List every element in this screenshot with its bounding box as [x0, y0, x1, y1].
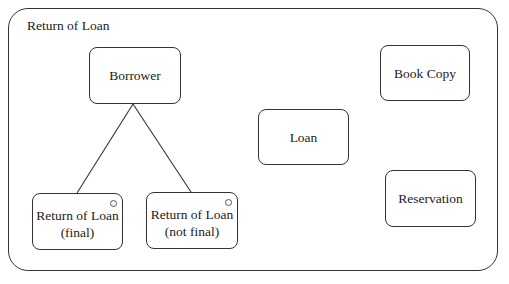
- node-label: Borrower: [109, 67, 161, 84]
- node-label: Return of Loan (final): [36, 207, 118, 241]
- edge-borrower-return-final: [77, 104, 133, 193]
- edge-borrower-return-not-final: [133, 104, 191, 192]
- node-label: Loan: [290, 129, 318, 146]
- node-reservation[interactable]: Reservation: [385, 170, 476, 227]
- node-return-not-final[interactable]: Return of Loan (not final): [146, 192, 238, 249]
- node-label: Reservation: [398, 190, 462, 207]
- node-label: Return of Loan (not final): [151, 206, 233, 240]
- circle-icon: [225, 199, 232, 206]
- node-loan[interactable]: Loan: [258, 109, 349, 165]
- node-label: Book Copy: [394, 65, 456, 82]
- circle-icon: [110, 200, 117, 207]
- node-borrower[interactable]: Borrower: [89, 47, 181, 104]
- node-return-final[interactable]: Return of Loan (final): [32, 193, 123, 250]
- node-book-copy[interactable]: Book Copy: [380, 45, 470, 101]
